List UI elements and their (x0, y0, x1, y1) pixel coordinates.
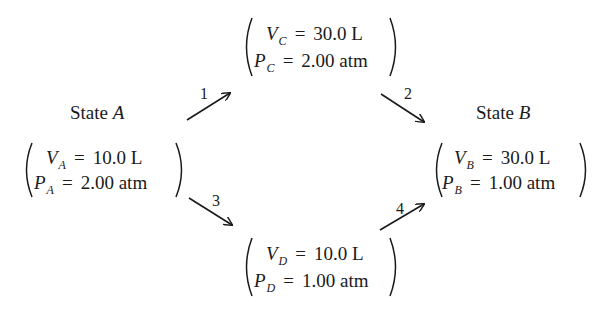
state-c-pressure: PC=2.00 atm (254, 51, 368, 70)
state-b-volume: VB=30.0 L (454, 148, 550, 167)
state-b-values: VB=30.0 L PB=1.00 atm (430, 142, 592, 198)
state-b-pressure: PB=1.00 atm (442, 173, 555, 192)
state-d-values: VD=10.0 L PD=1.00 atm (240, 237, 402, 297)
state-b-title: State B (476, 102, 530, 124)
left-paren (240, 17, 254, 77)
step-label-3: 3 (212, 192, 220, 210)
state-c-volume: VC=30.0 L (266, 24, 363, 43)
arrow-step-2 (381, 94, 424, 122)
right-paren (388, 17, 402, 77)
step-label-4: 4 (396, 200, 404, 218)
state-d-volume: VD=10.0 L (266, 244, 364, 263)
step-label-1: 1 (200, 85, 208, 103)
left-paren (240, 237, 254, 297)
state-a-title: State A (70, 102, 124, 124)
arrow-step-1 (187, 93, 230, 120)
state-a-values: VA=10.0 L PA=2.00 atm (20, 142, 188, 198)
state-a-pressure: PA=2.00 atm (34, 173, 147, 192)
state-c-values: VC=30.0 L PC=2.00 atm (240, 17, 402, 77)
right-paren (388, 237, 402, 297)
state-d-pressure: PD=1.00 atm (254, 271, 369, 290)
right-paren (578, 142, 592, 198)
state-a-volume: VA=10.0 L (46, 148, 142, 167)
arrow-step-3 (189, 198, 232, 225)
step-label-2: 2 (404, 85, 412, 103)
right-paren (174, 142, 188, 198)
left-paren (20, 142, 34, 198)
